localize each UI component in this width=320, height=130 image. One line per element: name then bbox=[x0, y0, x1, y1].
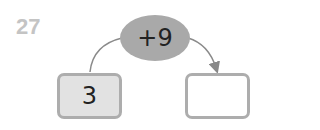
answer-box[interactable] bbox=[185, 73, 250, 119]
start-value-box: 3 bbox=[57, 73, 122, 119]
start-value: 3 bbox=[82, 82, 97, 110]
operation-label: +9 bbox=[137, 24, 172, 52]
right-arrow bbox=[188, 38, 216, 68]
left-arc bbox=[90, 38, 122, 72]
operation-bubble: +9 bbox=[120, 15, 190, 61]
